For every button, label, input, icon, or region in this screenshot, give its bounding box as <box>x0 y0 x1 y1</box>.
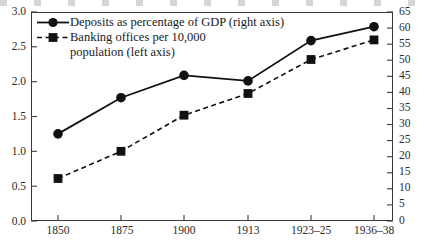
legend-label-banking-offices-line2: population (left axis) <box>36 45 175 60</box>
data-point-marker <box>53 129 63 139</box>
data-point-marker <box>116 93 126 103</box>
legend-label-banking-offices-line1: Banking offices per 10,000 <box>70 30 206 45</box>
legend-key-circle-solid <box>36 15 70 30</box>
data-point-marker <box>369 22 379 32</box>
chart-legend: Deposits as percentage of GDP (right axi… <box>36 15 284 60</box>
right-axis-ticks <box>387 12 393 221</box>
data-point-marker <box>307 55 316 64</box>
data-point-marker <box>244 89 253 98</box>
legend-item-deposits: Deposits as percentage of GDP (right axi… <box>36 15 284 30</box>
legend-label-deposits: Deposits as percentage of GDP (right axi… <box>70 15 284 30</box>
data-point-marker <box>243 76 253 86</box>
data-point-marker <box>117 147 126 156</box>
x-axis-ticks <box>58 215 374 221</box>
data-point-marker <box>370 36 379 45</box>
data-point-marker <box>179 71 189 81</box>
data-point-marker <box>54 174 63 183</box>
legend-item-banking-offices: Banking offices per 10,000 <box>36 30 284 45</box>
chart-container: 3.0 2.5 2.0 1.5 1.0 0.5 0.0 65 60 55 50 … <box>0 0 427 241</box>
data-point-marker <box>180 111 189 120</box>
data-point-marker <box>306 36 316 46</box>
legend-item-banking-offices-continued: population (left axis) <box>36 45 284 60</box>
legend-key-square-dashed <box>36 30 70 45</box>
